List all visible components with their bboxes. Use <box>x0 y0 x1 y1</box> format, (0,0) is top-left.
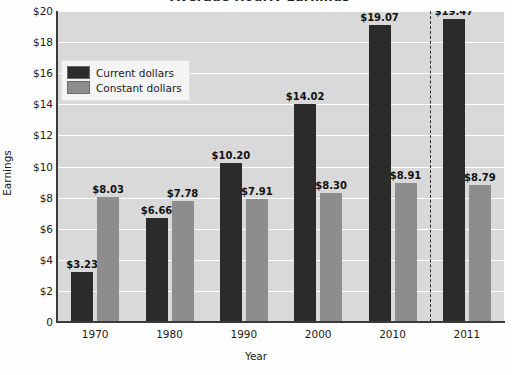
bar-value-label: $7.91 <box>241 186 273 197</box>
y-tick-label: $18 <box>1 36 53 48</box>
y-tick-label: $12 <box>1 129 53 141</box>
gridline <box>58 229 504 230</box>
bar-constant-1970[interactable] <box>97 197 119 322</box>
gridline <box>58 167 504 168</box>
y-tick-label: $4 <box>1 254 53 266</box>
gridline <box>58 42 504 43</box>
bar-constant-1980[interactable] <box>172 201 194 322</box>
bar-constant-2000[interactable] <box>320 193 342 322</box>
gridline <box>58 104 504 105</box>
bar-value-label: $7.78 <box>167 188 199 199</box>
gridline <box>58 260 504 261</box>
x-tick-label-1980: 1980 <box>156 328 183 340</box>
y-tick-label: $6 <box>1 223 53 235</box>
bar-value-label: $8.03 <box>92 184 124 195</box>
bar-value-label: $8.30 <box>315 180 347 191</box>
y-tick-label: $10 <box>1 161 53 173</box>
y-tick-label: 0 <box>1 316 53 328</box>
bar-value-label: $14.02 <box>286 91 325 102</box>
x-axis-title: Year <box>0 350 512 362</box>
x-tick-label-2010: 2010 <box>379 328 406 340</box>
legend-label-current-dollars: Current dollars <box>96 67 174 79</box>
bar-value-label: $3.23 <box>66 259 98 270</box>
gridline <box>58 135 504 136</box>
legend-swatch-constant-dollars <box>67 81 90 94</box>
legend-label-constant-dollars: Constant dollars <box>96 82 182 94</box>
bar-current-2011[interactable] <box>443 19 465 322</box>
y-tick-label: $16 <box>1 67 53 79</box>
chart-figure: Average Hourly Earnings Earnings 0$2$4$6… <box>0 0 512 375</box>
projection-divider-line <box>430 11 431 322</box>
gridline <box>58 291 504 292</box>
x-tick-label-2000: 2000 <box>305 328 332 340</box>
chart-legend: Current dollars Constant dollars <box>62 61 189 100</box>
legend-swatch-current-dollars <box>67 66 90 79</box>
chart-title: Average Hourly Earnings <box>60 0 460 1</box>
bar-constant-2011[interactable] <box>469 185 491 322</box>
legend-item-constant-dollars[interactable]: Constant dollars <box>67 80 182 95</box>
x-axis-line <box>56 321 505 323</box>
bar-value-label: $10.20 <box>212 150 251 161</box>
bar-current-1990[interactable] <box>220 163 242 322</box>
x-tick-label-1970: 1970 <box>82 328 109 340</box>
bar-current-2010[interactable] <box>369 25 391 322</box>
bar-value-label: $8.79 <box>464 172 496 183</box>
bar-constant-1990[interactable] <box>246 199 268 322</box>
y-axis-line <box>56 11 58 323</box>
y-tick-label: $2 <box>1 285 53 297</box>
y-tick-label: $8 <box>1 192 53 204</box>
bar-value-label: $6.66 <box>141 205 173 216</box>
plot-area: $3.23$8.03$6.66$7.78$10.20$7.91$14.02$8.… <box>58 11 504 322</box>
bar-value-label: $8.91 <box>390 170 422 181</box>
y-axis-tick-labels: 0$2$4$6$8$10$12$14$16$18$20 <box>0 11 53 322</box>
y-tick-label: $14 <box>1 98 53 110</box>
bar-value-label: $19.07 <box>360 12 399 23</box>
y-tick-label: $20 <box>1 5 53 17</box>
x-tick-label-1990: 1990 <box>230 328 257 340</box>
x-tick-label-2011: 2011 <box>453 328 480 340</box>
bar-constant-2010[interactable] <box>395 183 417 322</box>
bar-current-1970[interactable] <box>71 272 93 322</box>
bar-current-2000[interactable] <box>294 104 316 322</box>
bar-value-label: $19.47 <box>435 11 474 17</box>
bar-current-1980[interactable] <box>146 218 168 322</box>
gridline <box>58 198 504 199</box>
legend-item-current-dollars[interactable]: Current dollars <box>67 65 182 80</box>
